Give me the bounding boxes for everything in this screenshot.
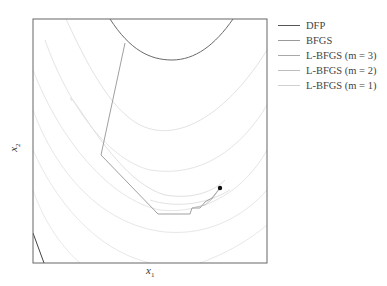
y-axis-label: x2 bbox=[7, 143, 22, 151]
y-axis-label-sub: 2 bbox=[14, 143, 22, 147]
legend-label: DFP bbox=[306, 20, 325, 31]
legend-label: L-BFGS (m = 2) bbox=[306, 65, 376, 76]
legend-swatch-lbfgs-2 bbox=[278, 70, 300, 71]
x-axis-label: x1 bbox=[146, 264, 154, 279]
legend-item: DFP bbox=[278, 18, 376, 33]
y-axis-label-main: x bbox=[7, 147, 19, 152]
legend-swatch-dfp bbox=[278, 25, 300, 26]
legend-item: BFGS bbox=[278, 33, 376, 48]
x-axis-label-sub: 1 bbox=[151, 271, 155, 279]
legend-item: L-BFGS (m = 1) bbox=[278, 78, 376, 93]
optimum-marker bbox=[218, 186, 222, 190]
legend-swatch-lbfgs-3 bbox=[278, 55, 300, 56]
contour-lines bbox=[33, 19, 267, 263]
legend-label: L-BFGS (m = 1) bbox=[306, 80, 376, 91]
legend: DFP BFGS L-BFGS (m = 3) L-BFGS (m = 2) L… bbox=[278, 18, 376, 93]
legend-item: L-BFGS (m = 3) bbox=[278, 48, 376, 63]
legend-item: L-BFGS (m = 2) bbox=[278, 63, 376, 78]
legend-label: BFGS bbox=[306, 35, 332, 46]
optimization-path bbox=[101, 43, 220, 214]
legend-label: L-BFGS (m = 3) bbox=[306, 50, 376, 61]
legend-swatch-bfgs bbox=[278, 40, 300, 41]
legend-swatch-lbfgs-1 bbox=[278, 85, 300, 86]
